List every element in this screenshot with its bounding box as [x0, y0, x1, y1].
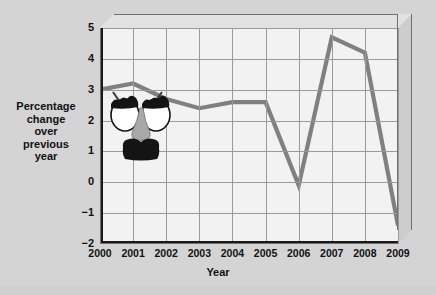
panel-right-edge [397, 14, 398, 230]
gridline-horizontal [100, 59, 398, 60]
y-axis-tick-label: 5 [68, 21, 94, 33]
plot-top-face [100, 14, 412, 28]
y-axis-tick-label: 1 [68, 144, 94, 156]
gridline-horizontal [100, 182, 398, 183]
panel-bottom-edge [100, 243, 398, 244]
plot-right-face [398, 14, 412, 244]
y-axis-title-line-1: Percentage [4, 100, 88, 113]
panel-left-edge [100, 28, 101, 244]
chart-figure: Percentage change over previous year 543… [0, 0, 436, 295]
eyebrow-right [142, 96, 169, 109]
gridline-horizontal [100, 213, 398, 214]
x-axis-tick-label: 2009 [378, 247, 418, 259]
x-axis-title: Year [0, 266, 436, 278]
gridline-vertical [365, 28, 366, 244]
right-face-outer-edge [411, 14, 412, 230]
y-axis-tick-label: −1 [68, 206, 94, 218]
gridline-vertical [299, 28, 300, 244]
y-axis-tick-label: 4 [68, 52, 94, 64]
y-axis-tick-label: 2 [68, 114, 94, 126]
y-axis-title-line-3: over [4, 125, 88, 138]
plot-area [100, 28, 398, 244]
groucho-disguise-icon [106, 80, 182, 164]
top-face-back-edge [114, 14, 398, 15]
x-axis-tick-labels: 2000200120022003200420052006200720082009 [100, 247, 412, 261]
y-axis-tick-label: 0 [68, 175, 94, 187]
moustache [123, 138, 160, 160]
eyebrow-left [111, 96, 138, 109]
plot-3d-shell [100, 14, 412, 244]
gridline-vertical [266, 28, 267, 244]
gridline-horizontal [100, 28, 398, 29]
gridline-vertical [232, 28, 233, 244]
y-axis-tick-label: 3 [68, 83, 94, 95]
gridline-vertical [199, 28, 200, 244]
gridline-vertical [332, 28, 333, 244]
gridline-vertical [398, 28, 399, 244]
